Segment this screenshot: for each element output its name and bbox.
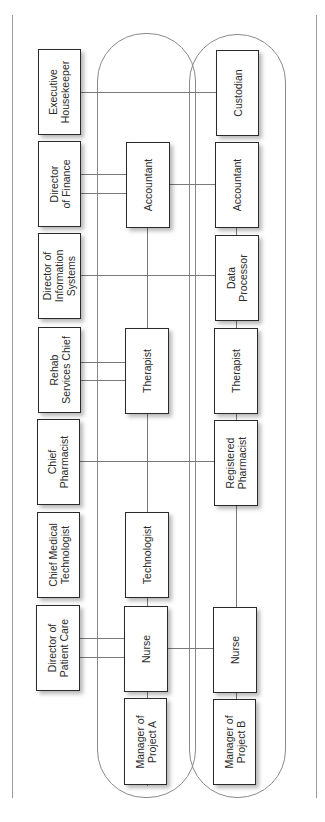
connector-housekeeper-custodian <box>80 92 216 93</box>
connector-nurse-a-b <box>168 648 214 649</box>
box-chief-pharmacist: Chief Pharmacist <box>37 419 80 505</box>
box-project-b-custodian: Custodian <box>216 50 259 136</box>
label-project-b-nurse: Nurse <box>229 636 241 664</box>
connector-patientcare-nurse-1 <box>80 638 126 639</box>
label-project-a-manager: Manager of Project A <box>134 715 158 768</box>
box-director-of-patient-care: Director of Patient Care <box>36 605 80 691</box>
label-project-b-custodian: Custodian <box>232 69 244 116</box>
label-chief-medical-technologist: Chief Medical Technologist <box>47 523 71 587</box>
box-director-of-information-systems: Director of Information Systems <box>38 233 81 319</box>
box-project-a-technologist: Technologist <box>125 512 169 598</box>
connector-patientcare-nurse-2 <box>80 657 126 658</box>
label-project-b-data-processor: Data Processor <box>225 254 249 301</box>
box-project-a-manager: Manager of Project A <box>124 698 167 785</box>
frame-right-line <box>316 15 317 798</box>
connector-rehab-therapist-1 <box>80 362 126 363</box>
label-director-of-finance: Director of Finance <box>48 159 72 208</box>
box-project-b-registered-pharmacist: Registered Pharmacist <box>214 420 258 506</box>
connector-finance-accountant-1 <box>80 174 127 175</box>
label-project-a-therapist: Therapist <box>141 349 153 393</box>
box-chief-medical-technologist: Chief Medical Technologist <box>37 512 80 598</box>
label-rehab-services-chief: Rehab Services Chief <box>48 336 72 404</box>
label-project-a-technologist: Technologist <box>141 526 153 584</box>
box-project-a-nurse: Nurse <box>124 606 168 692</box>
label-chief-pharmacist: Chief Pharmacist <box>47 436 71 489</box>
label-project-b-therapist: Therapist <box>230 349 242 393</box>
frame-left-line <box>12 15 13 798</box>
connector-rehab-therapist-2 <box>80 380 126 381</box>
box-executive-housekeeper: Executive Housekeeper <box>38 49 81 135</box>
box-project-b-nurse: Nurse <box>213 607 257 693</box>
label-director-of-patient-care: Director of Patient Care <box>46 619 70 677</box>
box-project-a-accountant: Accountant <box>126 142 170 228</box>
label-director-of-information-systems: Director of Information Systems <box>42 250 78 303</box>
label-project-b-registered-pharmacist: Registered Pharmacist <box>224 437 248 490</box>
connector-finance-accountant-2 <box>80 193 127 194</box>
label-executive-housekeeper: Executive Housekeeper <box>48 61 72 123</box>
box-project-b-data-processor: Data Processor <box>215 235 259 321</box>
box-project-b-therapist: Therapist <box>214 328 258 414</box>
box-project-b-accountant: Accountant <box>215 142 259 228</box>
box-director-of-finance: Director of Finance <box>38 141 81 227</box>
box-project-a-therapist: Therapist <box>125 328 169 414</box>
box-rehab-services-chief: Rehab Services Chief <box>38 327 81 413</box>
label-project-b-manager: Manager of Project B <box>223 715 247 768</box>
label-project-b-accountant: Accountant <box>231 159 243 212</box>
label-project-a-accountant: Accountant <box>142 159 154 212</box>
connector-accountant-a-b <box>169 184 216 185</box>
label-project-a-nurse: Nurse <box>140 635 152 663</box>
box-project-b-manager: Manager of Project B <box>213 699 256 785</box>
